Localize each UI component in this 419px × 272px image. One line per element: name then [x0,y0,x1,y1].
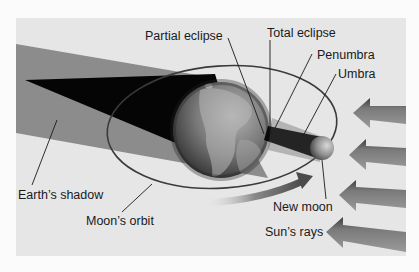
partial-eclipse-label: Partial eclipse [145,29,223,43]
moon [310,136,334,160]
total-eclipse-label: Total eclipse [267,26,336,40]
solar-eclipse-diagram: Partial eclipse Total eclipse Penumbra U… [0,0,419,272]
penumbra-label: Penumbra [317,48,375,62]
suns-rays-label: Sun’s rays [265,225,323,239]
earths-shadow-label: Earth’s shadow [18,188,104,202]
moons-orbit-label: Moon’s orbit [86,214,154,228]
new-moon-label: New moon [273,200,333,214]
umbra-label: Umbra [338,67,376,81]
earth-globe [173,82,269,178]
